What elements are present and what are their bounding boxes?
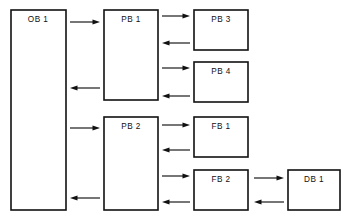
arrowhead-left [70,85,78,90]
block-pb4[interactable]: PB 4 [194,62,248,102]
arrowhead-right [183,13,191,18]
arrowhead-right [183,173,191,178]
connection-pb2-to-ob1 [70,195,100,200]
connection-fb2-to-pb2 [162,199,190,204]
connection-ob1-to-pb1 [70,19,100,24]
arrowhead-right [183,122,191,127]
arrowhead-left [162,93,170,98]
connection-fb1-to-pb2 [162,147,190,152]
block-structure-figure: OB 1PB 1PB 2PB 3PB 4FB 1FB 2DB 1 [0,0,349,224]
block-label: OB 1 [28,15,48,24]
block-db1[interactable]: DB 1 [288,170,340,210]
connection-pb2-to-fb1 [162,122,190,127]
block-label: PB 3 [211,15,230,24]
arrowhead-left [70,195,78,200]
block-fb2[interactable]: FB 2 [194,170,248,210]
arrowhead-left [254,199,262,204]
block-fb1[interactable]: FB 1 [194,117,248,157]
diagram-canvas: OB 1PB 1PB 2PB 3PB 4FB 1FB 2DB 1 [0,0,349,224]
connection-db1-to-fb2 [254,199,284,204]
block-label: FB 2 [212,175,231,184]
arrowhead-left [162,147,170,152]
block-pb2[interactable]: PB 2 [104,117,158,210]
arrowhead-right [183,65,191,70]
connection-pb1-to-ob1 [70,85,100,90]
arrowhead-right [93,125,101,130]
arrowhead-right [93,19,101,24]
connection-pb4-to-pb1 [162,93,190,98]
block-outline [11,10,66,210]
block-label: PB 1 [121,15,140,24]
connection-ob1-to-pb2 [70,125,100,130]
block-label: PB 2 [121,122,140,131]
block-ob1[interactable]: OB 1 [11,10,66,210]
connection-pb2-to-fb2 [162,173,190,178]
block-label: PB 4 [211,67,230,76]
connections-layer [70,13,284,204]
arrowhead-left [162,199,170,204]
connection-pb1-to-pb3 [162,13,190,18]
blocks-layer: OB 1PB 1PB 2PB 3PB 4FB 1FB 2DB 1 [11,10,340,210]
connection-pb3-to-pb1 [162,40,190,45]
connection-pb1-to-pb4 [162,65,190,70]
arrowhead-right [277,175,285,180]
arrowhead-left [162,40,170,45]
block-pb3[interactable]: PB 3 [194,10,248,50]
block-label: DB 1 [304,175,324,184]
block-pb1[interactable]: PB 1 [104,10,158,100]
connection-fb2-to-db1 [254,175,284,180]
block-label: FB 1 [212,122,231,131]
